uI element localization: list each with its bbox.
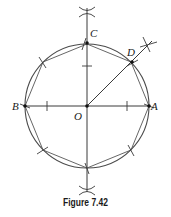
figure-caption: Figure 7.42 xyxy=(13,197,158,208)
label-b: B xyxy=(12,100,19,112)
octagon-construction-diagram: A B C D O xyxy=(0,0,171,217)
point-c xyxy=(85,41,89,45)
label-o: O xyxy=(74,110,82,122)
diagonal-od xyxy=(87,41,152,106)
label-d: D xyxy=(126,46,135,58)
point-o xyxy=(85,104,89,108)
label-c: C xyxy=(90,27,98,39)
point-d xyxy=(130,60,134,64)
point-b xyxy=(23,104,27,108)
label-a: A xyxy=(150,100,158,112)
